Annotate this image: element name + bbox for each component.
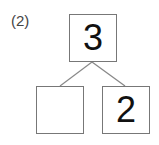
problem-number: (2) [11,12,29,29]
part-box-left[interactable] [36,86,84,134]
part-box-right: 2 [102,86,150,134]
whole-box: 3 [69,14,117,62]
